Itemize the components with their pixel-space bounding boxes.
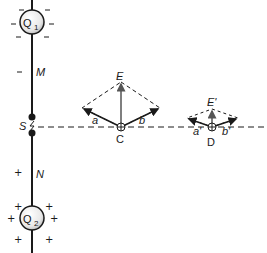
label-a-prime: a' <box>193 125 202 137</box>
q2-label: Q <box>23 213 32 225</box>
label-b: b <box>139 114 145 126</box>
label-m: M <box>36 66 46 78</box>
label-c: C <box>116 133 124 145</box>
q2-subscript: 2 <box>34 219 39 228</box>
svg-text:+: + <box>45 201 53 212</box>
label-d: D <box>207 136 215 148</box>
spark-gap <box>29 114 36 137</box>
svg-text:+: + <box>50 213 58 224</box>
label-s: S <box>19 120 27 132</box>
q1-label: Q <box>23 17 32 29</box>
svg-text:+: + <box>45 234 53 245</box>
label-a: a <box>92 114 98 126</box>
plus-sign: + <box>14 167 22 178</box>
label-e: E <box>116 70 124 82</box>
label-e-prime: E' <box>207 96 217 108</box>
label-n: N <box>36 168 44 180</box>
svg-text:+: + <box>14 234 22 245</box>
label-b-prime: b' <box>222 125 231 137</box>
dipole-field-diagram: Q 1 M S + N Q 2 + + + + + + <box>0 0 267 253</box>
svg-text:+: + <box>14 201 22 212</box>
charge-q1: Q 1 <box>20 10 44 34</box>
charge-q2: Q 2 <box>20 206 44 230</box>
q1-subscript: 1 <box>34 23 39 32</box>
svg-text:+: + <box>7 213 15 224</box>
